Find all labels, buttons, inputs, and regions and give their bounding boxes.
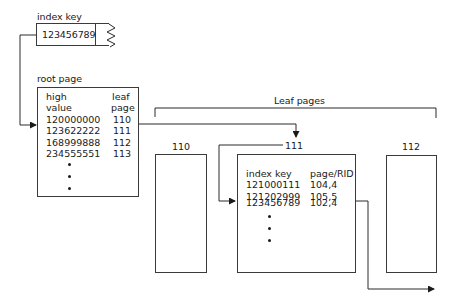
root-row-high-value: 120000000 — [46, 114, 100, 125]
leaf-pages-label: Leaf pages — [274, 95, 325, 106]
leaf-page-111-box: index key page/RID 121000111 104,4 12120… — [237, 154, 356, 273]
leaf-row-index-key: 123456789 — [246, 197, 300, 208]
root-row-high-value: 123622222 — [46, 125, 100, 136]
root-row-leaf-page: 113 — [113, 148, 131, 159]
root-header-page: page — [111, 102, 135, 113]
leaf-header-page-rid: page/RID — [310, 168, 354, 179]
leaf-page-110-label: 110 — [172, 141, 190, 152]
root-row-high-value: 168999888 — [46, 137, 100, 148]
leaf-page-110-box — [155, 154, 207, 273]
search-key-tail — [95, 23, 109, 46]
leaf-row-page-rid: 102,4 — [310, 197, 337, 208]
search-key-box: 123456789 — [36, 23, 96, 46]
ellipsis-dot — [268, 215, 271, 218]
ellipsis-dot — [68, 187, 71, 190]
leaf-header-index-key: index key — [246, 168, 292, 179]
search-key-label: index key — [37, 11, 82, 22]
root-row-leaf-page: 111 — [113, 125, 131, 136]
root-page-title: root page — [37, 73, 82, 84]
leaf-row-page-rid: 104,4 — [310, 179, 337, 190]
leaf-pages-bracket — [155, 108, 436, 118]
leaf-page-112-label: 112 — [402, 141, 420, 152]
ellipsis-dot — [268, 227, 271, 230]
root-header-value: value — [46, 102, 72, 113]
root-row-leaf-page: 110 — [113, 114, 131, 125]
root-to-leaf-arrow — [118, 124, 296, 137]
key-to-root-arrow — [20, 35, 36, 125]
root-header-high: high — [46, 91, 67, 102]
leaf-row-index-key: 121000111 — [246, 179, 300, 190]
ellipsis-dot — [68, 163, 71, 166]
root-row-high-value: 234555551 — [46, 148, 100, 159]
root-header-leaf: leaf — [112, 91, 130, 102]
root-page-box: high leaf value page 120000000 110 12362… — [37, 87, 139, 197]
root-row-leaf-page: 112 — [113, 137, 131, 148]
leaf-page-112-box — [386, 155, 437, 273]
ellipsis-dot — [268, 239, 271, 242]
ellipsis-dot — [68, 175, 71, 178]
search-key-value: 123456789 — [42, 29, 96, 40]
leaf-page-111-label: 111 — [285, 140, 303, 151]
